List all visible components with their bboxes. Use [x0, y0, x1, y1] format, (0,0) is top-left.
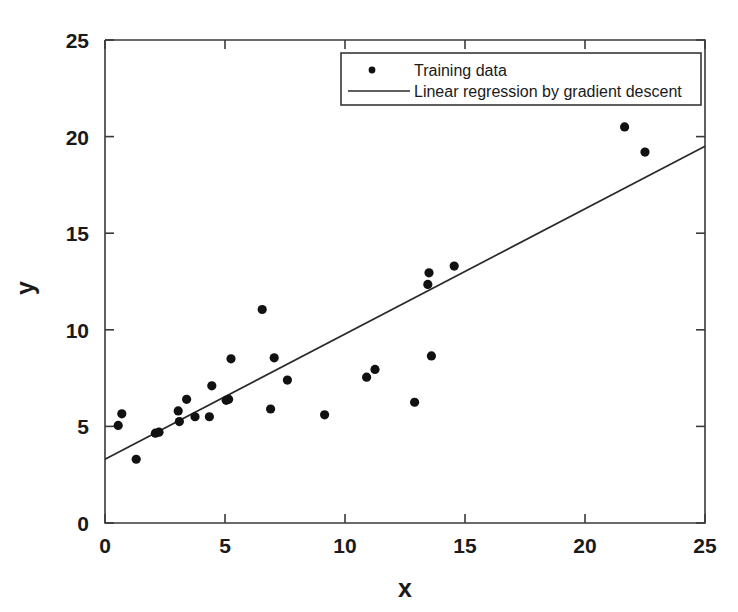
data-point	[132, 455, 141, 464]
chart-figure: 0510152025 0510152025 x y Training data …	[0, 0, 738, 612]
data-point	[270, 353, 279, 362]
x-tick-label: 15	[453, 534, 477, 557]
data-point	[320, 410, 329, 419]
y-tick-label: 15	[66, 222, 90, 245]
x-tick-label: 5	[219, 534, 231, 557]
data-point	[174, 406, 183, 415]
data-point	[117, 409, 126, 418]
data-point	[226, 354, 235, 363]
data-point	[182, 395, 191, 404]
plot-axes	[105, 40, 705, 523]
legend-label-training-data: Training data	[414, 62, 507, 79]
y-tick-label: 25	[66, 29, 90, 52]
training-data-points	[114, 122, 650, 464]
y-tick-label: 10	[66, 319, 89, 342]
data-point	[175, 417, 184, 426]
axis-frame	[105, 40, 705, 523]
y-axis-title: y	[11, 281, 39, 295]
chart-legend[interactable]: Training data Linear regression by gradi…	[341, 53, 701, 105]
data-point	[224, 395, 233, 404]
data-point	[266, 404, 275, 413]
y-tick-label: 20	[66, 126, 89, 149]
data-point	[640, 147, 649, 156]
x-axis-tick-marks	[105, 40, 705, 523]
x-tick-label: 0	[99, 534, 111, 557]
data-point	[423, 280, 432, 289]
data-point	[424, 268, 433, 277]
y-axis-tick-labels: 0510152025	[66, 29, 90, 535]
x-tick-label: 10	[333, 534, 356, 557]
y-tick-label: 0	[77, 512, 89, 535]
data-point	[362, 373, 371, 382]
legend-scatter-marker-icon	[369, 67, 376, 74]
data-point	[620, 122, 629, 131]
y-axis-tick-marks	[105, 40, 705, 523]
x-tick-label: 20	[573, 534, 596, 557]
data-point	[410, 398, 419, 407]
legend-label-regression: Linear regression by gradient descent	[414, 83, 682, 100]
data-point	[114, 421, 123, 430]
data-point	[450, 261, 459, 270]
data-point	[190, 412, 199, 421]
data-point	[154, 428, 163, 437]
scatter-plot-svg: 0510152025 0510152025 x y Training data …	[0, 0, 738, 612]
data-point	[370, 365, 379, 374]
x-tick-label: 25	[693, 534, 717, 557]
data-point	[207, 381, 216, 390]
x-axis-title: x	[398, 574, 412, 602]
y-tick-label: 5	[77, 415, 89, 438]
data-point	[258, 305, 267, 314]
x-axis-tick-labels: 0510152025	[99, 534, 717, 557]
data-point	[283, 375, 292, 384]
data-point	[427, 351, 436, 360]
data-point	[205, 412, 214, 421]
